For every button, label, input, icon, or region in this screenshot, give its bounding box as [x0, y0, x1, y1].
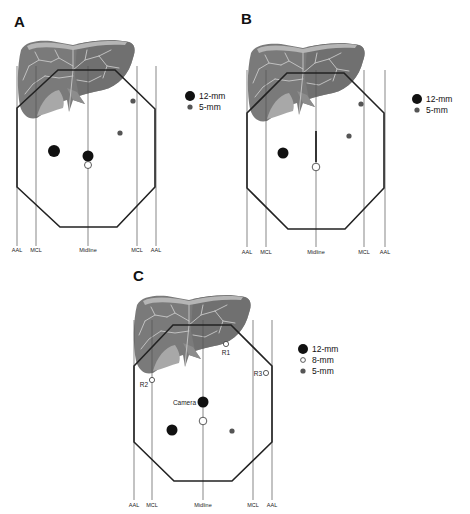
label-aal: AAL — [242, 249, 252, 255]
port-label-r1: R1 — [222, 349, 231, 356]
port-8mm-r2 — [149, 377, 154, 382]
label-mcl: MCL — [131, 247, 143, 253]
legend-8mm-marker — [301, 358, 306, 363]
label-aal: AAL — [380, 249, 390, 255]
label-midline: Midline — [307, 249, 324, 255]
legend-5mm-marker — [414, 107, 419, 112]
label-mcl: MCL — [247, 502, 259, 508]
panel-label-c: C — [133, 267, 144, 284]
label-mcl: MCL — [146, 502, 158, 508]
port-5mm — [229, 428, 234, 433]
port-12mm — [83, 151, 94, 162]
umbilicus-open-circle — [312, 163, 320, 171]
legend-12mm-marker — [412, 94, 422, 104]
liver-illustration — [134, 295, 251, 373]
panel-label-b: B — [241, 10, 252, 27]
label-aal: AAL — [267, 502, 277, 508]
legend-5mm-marker — [187, 104, 192, 109]
port-placement-figure: A 12-mm 5-mm AAL MCL Midline MCL AAL B — [0, 0, 470, 514]
umbilicus-open-circle — [199, 417, 207, 425]
legend-5mm-marker — [300, 368, 305, 373]
port-5mm — [358, 101, 363, 106]
port-label-camera: Camera — [173, 399, 197, 406]
port-5mm — [130, 98, 135, 103]
port-label-r2: R2 — [140, 381, 149, 388]
port-label-r3: R3 — [254, 370, 263, 377]
legend-8mm-label: 8-mm — [312, 355, 334, 365]
legend-12mm-label: 12-mm — [426, 94, 452, 104]
umbilicus-open-circle — [85, 162, 92, 169]
label-mcl: MCL — [30, 247, 42, 253]
label-aal: AAL — [151, 247, 161, 253]
label-aal: AAL — [129, 502, 139, 508]
port-12mm — [278, 148, 289, 159]
legend-5mm-label: 5-mm — [312, 366, 334, 376]
port-8mm-r1 — [223, 341, 228, 346]
legend-12mm-label: 12-mm — [312, 344, 338, 354]
legend-12mm-label: 12-mm — [199, 91, 225, 101]
label-aal: AAL — [12, 247, 22, 253]
liver-illustration — [18, 40, 135, 118]
port-12mm — [167, 425, 178, 436]
liver-illustration — [248, 43, 365, 121]
panel-label-a: A — [14, 13, 25, 30]
port-5mm — [117, 130, 122, 135]
legend-5mm-label: 5-mm — [426, 105, 448, 115]
label-midline: Midline — [79, 247, 96, 253]
legend-12mm-marker — [185, 91, 195, 101]
label-mcl: MCL — [358, 249, 370, 255]
port-12mm-camera — [198, 397, 209, 408]
legend-12mm-marker — [298, 344, 308, 354]
panel-a: A 12-mm 5-mm AAL MCL Midline MCL AAL — [12, 13, 226, 253]
port-12mm — [48, 145, 60, 157]
port-8mm-r3 — [263, 370, 268, 375]
label-mcl: MCL — [260, 249, 272, 255]
legend-5mm-label: 5-mm — [199, 102, 221, 112]
panel-b: B 12-mm 5-mm AAL MCL Midline MCL AAL — [241, 10, 452, 255]
label-midline: Midline — [194, 502, 211, 508]
port-5mm — [346, 133, 351, 138]
panel-c: C R1 R2 R3 Camera 12-mm 8-mm 5-mm AAL MC… — [129, 267, 339, 508]
